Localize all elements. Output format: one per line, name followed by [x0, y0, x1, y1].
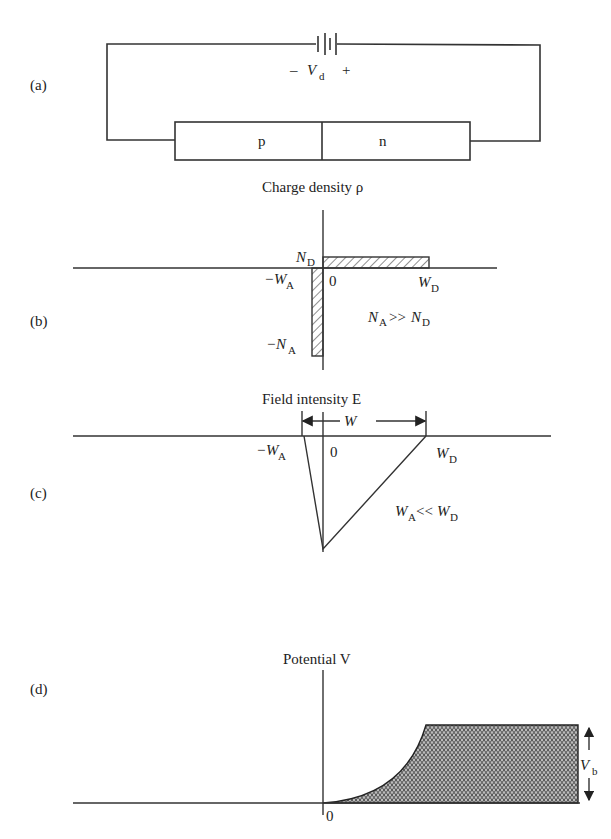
wd-label: W: [418, 274, 432, 290]
acceptor-charge-block: [312, 268, 323, 356]
depletion-width-label: W: [344, 413, 358, 429]
svg-text:A: A: [288, 344, 296, 356]
panel-label-a: (a): [30, 77, 47, 94]
panel-label-d: (d): [30, 681, 48, 698]
neg-wa-label: −W: [264, 271, 288, 287]
panel-d-plot: [73, 670, 589, 815]
panel-label-b: (b): [30, 313, 48, 330]
panel-a-circuit: [107, 33, 540, 160]
relation-op: >>: [389, 309, 406, 325]
nd-relation-right: N: [410, 309, 422, 325]
origin-label-c: 0: [330, 444, 338, 460]
battery-plus: +: [342, 62, 350, 78]
panel-c-plot: [73, 411, 551, 552]
origin-label: 0: [329, 273, 337, 289]
na-relation-left: N: [367, 309, 379, 325]
wd-relation-right: W: [437, 503, 451, 519]
donor-charge-block: [323, 257, 429, 268]
svg-text:D: D: [431, 282, 439, 294]
neg-wa-label-c: −W: [256, 442, 280, 458]
battery-voltage-sub: d: [319, 70, 325, 82]
n-region-label: n: [379, 133, 387, 149]
field-intensity-title: Field intensity E: [262, 391, 361, 407]
svg-text:D: D: [422, 316, 430, 328]
svg-text:A: A: [408, 511, 416, 523]
battery-minus: –: [289, 62, 298, 78]
origin-label-d: 0: [326, 808, 334, 824]
wd-label-c: W: [436, 445, 450, 461]
pn-junction-diagram: (a) – V d + p n Charge density ρ (b) N D…: [0, 0, 611, 839]
potential-title: Potential V: [283, 651, 351, 667]
svg-text:A: A: [278, 450, 286, 462]
neg-na-label: −N: [266, 336, 287, 352]
svg-text:D: D: [450, 511, 458, 523]
svg-text:D: D: [307, 256, 315, 268]
svg-text:D: D: [449, 453, 457, 465]
panel-label-c: (c): [30, 485, 47, 502]
p-region-label: p: [258, 133, 266, 149]
nd-label: N: [295, 249, 307, 265]
charge-density-title: Charge density ρ: [262, 179, 363, 195]
svg-text:A: A: [379, 316, 387, 328]
wa-relation-left: W: [395, 503, 409, 519]
potential-fill: [323, 725, 578, 803]
battery-voltage-label: V: [307, 62, 318, 78]
svg-text:A: A: [286, 279, 294, 291]
svg-text:b: b: [592, 765, 598, 777]
vb-label: V: [580, 757, 591, 773]
relation-op-c: <<: [416, 503, 433, 519]
